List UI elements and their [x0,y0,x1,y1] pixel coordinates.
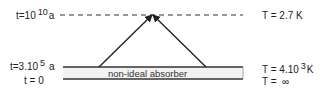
temperature-label-recombination-unit: K [307,64,314,75]
time-label-recombination: t=3.105 a [10,62,54,72]
temperature-label-present: T = 2.7 K [262,11,303,21]
temperature-label-origin: T = ∞ [262,77,289,87]
time-label-present-exponent: 10 [38,7,48,17]
time-label-recombination-base: t=3.10 [10,61,38,72]
absorber-label: non-ideal absorber [108,69,187,79]
right-photon-arrow [153,15,206,67]
temperature-label-recombination: T = 4.103K [262,65,313,75]
time-label-present: t=1010a [16,11,54,21]
left-photon-arrow [99,15,152,67]
temperature-label-recombination-exponent: 3 [301,61,306,71]
time-label-present-unit: a [49,10,55,21]
time-label-recombination-exponent: 5 [40,58,45,68]
temperature-label-recombination-base: T = 4.10 [262,64,299,75]
time-label-present-base: t=10 [16,10,36,21]
time-label-origin: t = 0 [24,76,44,86]
time-label-recombination-unit: a [49,61,55,72]
